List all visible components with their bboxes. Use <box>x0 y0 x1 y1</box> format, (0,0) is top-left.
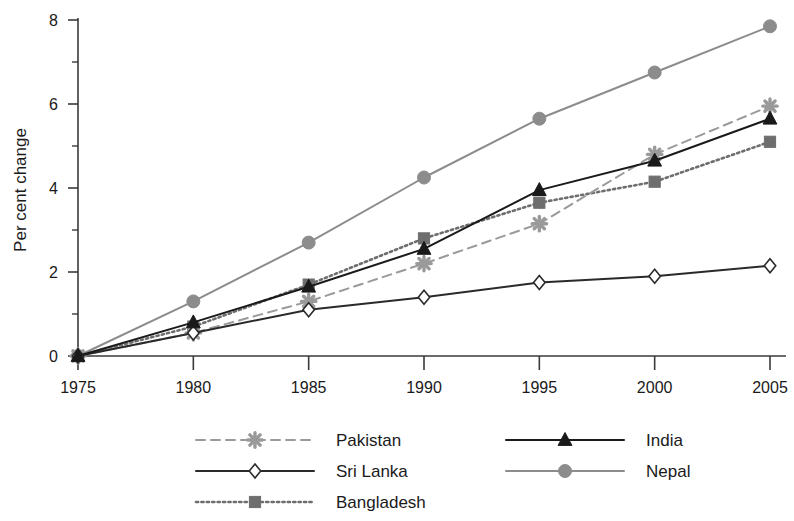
x-tick-label: 1985 <box>291 379 327 396</box>
y-tick-label: 2 <box>49 264 58 281</box>
series-pakistan <box>71 99 777 363</box>
circle-marker <box>533 112 546 125</box>
asterisk-marker <box>417 256 431 270</box>
y-tick-label: 8 <box>49 12 58 29</box>
legend-label: Sri Lanka <box>336 462 408 481</box>
legend-label: Pakistan <box>336 431 401 450</box>
x-tick-label: 1995 <box>522 379 558 396</box>
y-tick-label: 6 <box>49 96 58 113</box>
circle-marker <box>187 295 200 308</box>
diamond-marker <box>534 276 545 290</box>
square-marker <box>249 496 260 507</box>
circle-marker <box>559 465 572 478</box>
square-marker <box>534 197 545 208</box>
x-axis-ticks: 1975198019851990199520002005 <box>60 356 788 396</box>
circle-marker <box>648 66 661 79</box>
line-chart-figure: Per cent change 02468 197519801985199019… <box>0 0 794 521</box>
legend-item-india[interactable]: India <box>506 431 683 450</box>
legend-item-sri-lanka[interactable]: Sri Lanka <box>196 462 408 481</box>
diamond-marker <box>764 259 775 273</box>
x-tick-label: 1975 <box>60 379 96 396</box>
triangle-marker <box>558 433 572 446</box>
x-tick-label: 1990 <box>406 379 442 396</box>
circle-marker <box>764 20 777 33</box>
y-axis-ticks: 02468 <box>49 12 78 365</box>
diamond-marker <box>418 290 429 304</box>
diamond-marker <box>649 269 660 283</box>
circle-marker <box>302 236 315 249</box>
triangle-marker <box>763 111 777 124</box>
x-tick-label: 2000 <box>637 379 673 396</box>
y-tick-label: 4 <box>49 180 58 197</box>
asterisk-marker <box>248 433 262 447</box>
square-marker <box>649 176 660 187</box>
series-sri-lanka <box>72 259 775 363</box>
x-tick-label: 2005 <box>752 379 788 396</box>
y-tick-label: 0 <box>49 348 58 365</box>
series-layer <box>71 20 777 363</box>
square-marker <box>764 136 775 147</box>
chart-legend: PakistanIndiaSri LankaNepalBangladesh <box>196 431 690 512</box>
series-nepal <box>72 20 777 363</box>
legend-item-pakistan[interactable]: Pakistan <box>196 431 401 450</box>
legend-label: India <box>646 431 683 450</box>
x-tick-label: 1980 <box>176 379 212 396</box>
legend-item-bangladesh[interactable]: Bangladesh <box>196 493 426 512</box>
legend-label: Nepal <box>646 462 690 481</box>
circle-marker <box>418 171 431 184</box>
asterisk-marker <box>532 217 546 231</box>
diamond-marker <box>249 464 260 478</box>
legend-label: Bangladesh <box>336 493 426 512</box>
y-axis-title: Per cent change <box>11 128 30 252</box>
legend-item-nepal[interactable]: Nepal <box>506 462 690 481</box>
